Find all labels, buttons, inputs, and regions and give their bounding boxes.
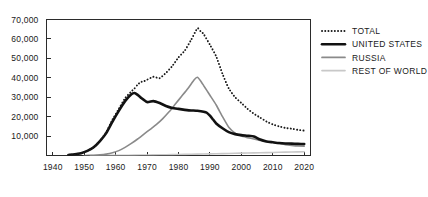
x-tick-label: 2010 <box>263 162 283 172</box>
y-tick-label: 30,000 <box>11 92 38 102</box>
y-tick-label: 60,000 <box>11 34 38 44</box>
legend-label: TOTAL <box>352 26 380 36</box>
y-tick-label: 10,000 <box>11 131 38 141</box>
y-tick-label: 50,000 <box>11 53 38 63</box>
y-tick-label: 40,000 <box>11 73 38 83</box>
x-tick-label: 1950 <box>74 162 94 172</box>
y-tick-label: 70,000 <box>11 15 38 25</box>
legend-label: REST OF WORLD <box>352 66 427 76</box>
chart-figure: 10,00020,00030,00040,00050,00060,00070,0… <box>0 0 428 197</box>
x-axis-tick-labels: 194019501960197019801990200020102020 <box>43 162 314 172</box>
x-tick-label: 1940 <box>43 162 63 172</box>
x-tick-label: 1990 <box>200 162 220 172</box>
x-tick-label: 1980 <box>169 162 189 172</box>
x-tick-label: 2020 <box>294 162 314 172</box>
y-tick-label: 20,000 <box>11 112 38 122</box>
x-tick-label: 1970 <box>137 162 157 172</box>
x-tick-label: 1960 <box>106 162 126 172</box>
line-chart: 10,00020,00030,00040,00050,00060,00070,0… <box>0 0 428 197</box>
x-tick-label: 2000 <box>231 162 251 172</box>
legend-label: UNITED STATES <box>352 39 422 49</box>
legend-label: RUSSIA <box>352 53 386 63</box>
